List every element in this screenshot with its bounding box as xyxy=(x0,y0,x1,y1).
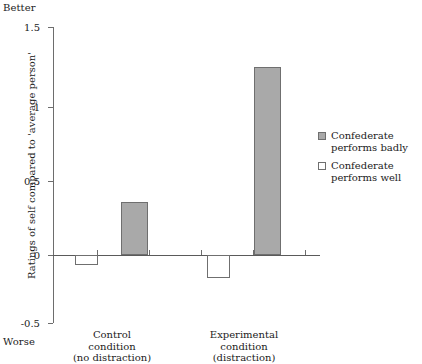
legend-swatch-white-icon xyxy=(318,162,326,170)
category-control-line2: condition xyxy=(37,341,187,353)
legend-badly-line2: performs badly xyxy=(331,142,422,154)
x-category-label-control: Control condition (no distraction) xyxy=(37,329,187,364)
bar-experimental-performs-well xyxy=(207,255,230,278)
legend-badly-line1: Confederate xyxy=(331,130,422,142)
legend-item-performs-badly: Confederate performs badly xyxy=(318,130,422,153)
x-tick-2 xyxy=(149,250,150,255)
x-category-label-experimental: Experimental condition (distraction) xyxy=(169,329,319,364)
y-tick-neg0.5: -0.5 xyxy=(48,323,53,324)
legend-swatch-gray-icon xyxy=(318,132,326,140)
category-experimental-line1: Experimental xyxy=(169,329,319,341)
y-tick-label-0.5: 0.5 xyxy=(24,176,40,187)
category-control-line3: (no distraction) xyxy=(37,352,187,364)
category-experimental-line3: (distraction) xyxy=(169,352,319,364)
x-tick-5 xyxy=(305,250,306,255)
y-axis-line xyxy=(53,27,54,323)
y-tick-label-neg0.5: -0.5 xyxy=(21,318,40,329)
bar-experimental-performs-badly xyxy=(254,67,281,255)
plot-area: 1.5 1 0.5 0 -0.5 Control condition xyxy=(53,27,320,323)
bar-control-performs-well xyxy=(75,255,98,265)
y-tick-label-1.5: 1.5 xyxy=(24,22,40,33)
bar-control-performs-badly xyxy=(121,202,148,255)
y-tick-label-0: 0 xyxy=(34,250,40,261)
y-tick-1.5: 1.5 xyxy=(48,27,53,28)
legend-well-line1: Confederate xyxy=(331,160,422,172)
y-tick-0.5: 0.5 xyxy=(48,181,53,182)
x-tick-3 xyxy=(201,250,202,255)
axis-bottom-annotation: Worse xyxy=(3,336,35,347)
axis-top-annotation: Better xyxy=(3,2,36,13)
category-experimental-line2: condition xyxy=(169,341,319,353)
legend-item-performs-well: Confederate performs well xyxy=(318,160,422,183)
y-tick-1: 1 xyxy=(48,107,53,108)
y-tick-label-1: 1 xyxy=(34,102,40,113)
legend-well-line2: performs well xyxy=(331,172,422,184)
y-axis-label: Ratings of self compared to 'average per… xyxy=(26,51,37,281)
category-control-line1: Control xyxy=(37,329,187,341)
chart-legend: Confederate performs badly Confederate p… xyxy=(318,130,422,190)
